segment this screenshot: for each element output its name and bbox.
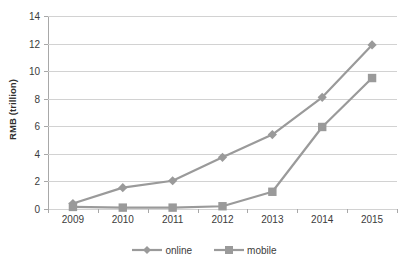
y-tick-label: 14	[0, 11, 40, 22]
x-tick-label: 2010	[96, 214, 150, 225]
chart-title	[0, 0, 409, 1]
series-line-online	[73, 45, 372, 204]
x-tick-mark	[297, 209, 298, 213]
x-tick-label: 2014	[295, 214, 349, 225]
y-tick-label: 4	[0, 148, 40, 159]
line-chart: RMB (trillion) 02468101214 2009201020112…	[0, 0, 409, 268]
data-point-mobile-2014	[318, 123, 326, 131]
data-point-online-2011	[168, 176, 177, 185]
x-tick-label: 2013	[245, 214, 299, 225]
y-tick-label: 10	[0, 66, 40, 77]
data-point-mobile-2010	[119, 203, 127, 211]
x-tick-mark	[198, 209, 199, 213]
x-tick-mark	[397, 209, 398, 213]
legend-marker-diamond-icon	[132, 244, 162, 256]
x-tick-label: 2015	[345, 214, 399, 225]
legend-label-online: online	[165, 245, 192, 256]
data-point-mobile-2012	[218, 202, 226, 210]
chart-legend: online mobile	[0, 244, 409, 256]
x-tick-label: 2011	[146, 214, 200, 225]
y-tick-label: 6	[0, 121, 40, 132]
series-layer	[48, 16, 397, 209]
x-tick-mark	[347, 209, 348, 213]
legend-label-mobile: mobile	[247, 245, 276, 256]
y-tick-label: 2	[0, 176, 40, 187]
x-tick-mark	[148, 209, 149, 213]
data-point-mobile-2013	[268, 188, 276, 196]
legend-item-mobile[interactable]: mobile	[214, 244, 276, 256]
x-tick-mark	[98, 209, 99, 213]
x-tick-label: 2009	[46, 214, 100, 225]
data-point-mobile-2011	[168, 203, 176, 211]
legend-marker-square-icon	[214, 244, 244, 256]
y-tick-label: 0	[0, 204, 40, 215]
x-tick-mark	[247, 209, 248, 213]
legend-item-online[interactable]: online	[132, 244, 192, 256]
data-point-mobile-2009	[69, 203, 77, 211]
data-point-mobile-2015	[368, 74, 376, 82]
y-tick-label: 8	[0, 93, 40, 104]
x-tick-mark	[48, 209, 49, 213]
data-point-online-2012	[218, 153, 227, 162]
data-point-online-2010	[118, 183, 127, 192]
y-tick-label: 12	[0, 38, 40, 49]
x-tick-label: 2012	[196, 214, 250, 225]
